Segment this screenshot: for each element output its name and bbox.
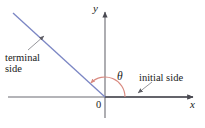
terminal-side-label-line2: side — [5, 63, 40, 74]
initial-side-label: initial side — [139, 72, 183, 83]
terminal-side-label: terminal side — [5, 52, 40, 75]
angle-diagram-figure: terminal side initial side y x 0 θ — [0, 0, 205, 128]
terminal-side-leader-line — [28, 36, 44, 50]
origin-label: 0 — [96, 99, 101, 110]
y-axis-label: y — [93, 3, 98, 15]
theta-angle-label: θ — [117, 70, 123, 82]
initial-side-leader-line — [138, 82, 152, 93]
terminal-side-label-line1: terminal — [5, 52, 40, 63]
x-axis-label: x — [190, 99, 195, 111]
